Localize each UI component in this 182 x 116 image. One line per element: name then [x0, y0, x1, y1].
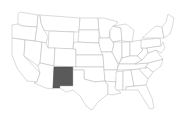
- state-nebraska: [73, 42, 103, 55]
- state-north-dakota: [79, 18, 99, 30]
- state-mississippi: [115, 71, 123, 90]
- state-new-mexico: [53, 67, 73, 88]
- state-kansas: [76, 55, 104, 67]
- state-south-dakota: [78, 30, 99, 43]
- state-washington: [18, 12, 38, 27]
- state-colorado: [54, 48, 76, 67]
- state-indiana: [122, 42, 130, 58]
- states-layer: [12, 12, 174, 110]
- state-new-york: [142, 26, 164, 38]
- state-florida: [126, 85, 154, 109]
- us-map: [0, 0, 182, 116]
- state-wyoming: [48, 31, 74, 49]
- state-wisconsin: [110, 26, 122, 42]
- state-montana: [40, 15, 80, 32]
- state-arkansas: [104, 70, 117, 82]
- state-new-england: [162, 14, 174, 38]
